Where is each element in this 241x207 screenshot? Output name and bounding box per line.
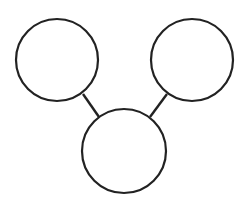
diagram-canvas <box>0 0 241 207</box>
edge-right-bottom <box>150 94 167 117</box>
node-bottom <box>82 109 166 193</box>
node-left <box>16 19 98 101</box>
edge-left-bottom <box>83 94 99 117</box>
node-right <box>151 19 233 101</box>
